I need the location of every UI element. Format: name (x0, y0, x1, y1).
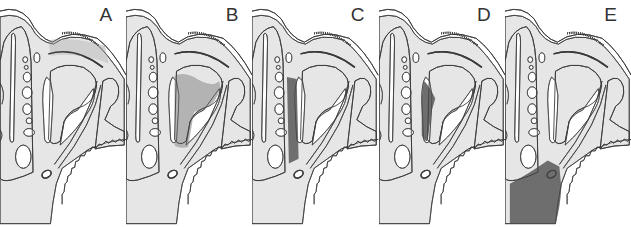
panel-label-e: E (604, 4, 617, 26)
cross-section-drawing-e (505, 0, 631, 227)
cross-section-drawing-b (126, 0, 252, 227)
cross-section-drawing-a (0, 0, 126, 227)
highlight-region-c (287, 77, 299, 163)
panel-b: B (126, 0, 252, 227)
cross-section-drawing-c (252, 0, 378, 227)
panel-c: C (252, 0, 378, 227)
panel-label-c: C (351, 4, 365, 26)
panel-a: A (0, 0, 126, 227)
cross-section-drawing-d (379, 0, 505, 227)
panel-label-d: D (477, 4, 491, 26)
anatomy-figure: A (0, 0, 631, 227)
panel-d: D (379, 0, 505, 227)
panel-label-a: A (100, 4, 113, 26)
panel-e: E (505, 0, 631, 227)
panel-label-b: B (226, 4, 239, 26)
